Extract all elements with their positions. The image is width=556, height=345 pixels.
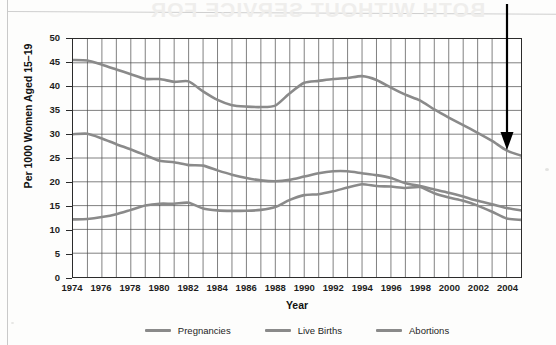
legend-label: Live Births bbox=[298, 326, 342, 336]
y-tick-label: 25 bbox=[34, 153, 60, 163]
plot-area bbox=[72, 38, 522, 278]
y-tick-label: 15 bbox=[34, 201, 60, 211]
y-tick-label: 30 bbox=[34, 129, 60, 139]
y-tick-label: 45 bbox=[34, 57, 60, 67]
x-axis-title: Year bbox=[72, 299, 522, 311]
y-tick-label: 10 bbox=[34, 225, 60, 235]
series-lines bbox=[73, 39, 521, 277]
y-tick-label: 40 bbox=[34, 81, 60, 91]
legend-item[interactable]: Pregnancies bbox=[145, 326, 231, 336]
y-tick-label: 20 bbox=[34, 177, 60, 187]
legend-line-swatch bbox=[376, 329, 402, 332]
legend-line-swatch bbox=[265, 329, 291, 332]
y-tick-mark bbox=[66, 278, 72, 279]
y-tick-label: 0 bbox=[34, 273, 60, 283]
y-axis-title: Per 1000 Women Aged 15–19 bbox=[22, 16, 34, 216]
x-tick-label: 2004 bbox=[487, 283, 527, 293]
y-axis: Per 1000 Women Aged 15–19 05101520253035… bbox=[0, 0, 72, 345]
y-tick-label: 50 bbox=[34, 33, 60, 43]
legend-label: Pregnancies bbox=[178, 326, 231, 336]
chart-legend: PregnanciesLive BirthsAbortions bbox=[72, 326, 522, 336]
legend-line-swatch bbox=[145, 329, 171, 332]
y-tick-label: 5 bbox=[34, 249, 60, 259]
legend-label: Abortions bbox=[409, 326, 449, 336]
legend-item[interactable]: Abortions bbox=[376, 326, 449, 336]
line-chart-figure: Per 1000 Women Aged 15–19 05101520253035… bbox=[0, 0, 556, 345]
y-tick-label: 35 bbox=[34, 105, 60, 115]
legend-item[interactable]: Live Births bbox=[265, 326, 342, 336]
